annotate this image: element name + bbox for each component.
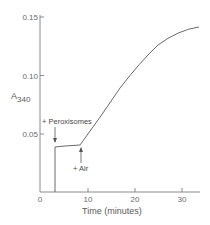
x-tick-label: 30	[178, 195, 187, 204]
y-tick-label: 0.05	[22, 130, 38, 139]
x-tick-label: 20	[131, 195, 140, 204]
arrow-up-icon	[79, 147, 83, 163]
x-axis-label: Time (minutes)	[82, 206, 142, 216]
arrow-down-icon	[53, 127, 57, 143]
x-tick-label: 0	[38, 195, 43, 204]
x-ticks: 0 10 20 30	[38, 188, 187, 204]
y-axis-label: A340	[11, 91, 31, 104]
annotation-peroxisomes: + Peroxisomes	[42, 117, 92, 126]
y-ticks: 0.15 0.10 0.05	[22, 13, 44, 139]
y-tick-label: 0.15	[22, 13, 38, 22]
x-tick-label: 10	[84, 195, 93, 204]
annotation-air: + Air	[73, 164, 89, 173]
absorbance-chart: 0.15 0.10 0.05 0 10 20 30 Time (minutes)…	[0, 0, 210, 225]
y-tick-label: 0.10	[22, 72, 38, 81]
